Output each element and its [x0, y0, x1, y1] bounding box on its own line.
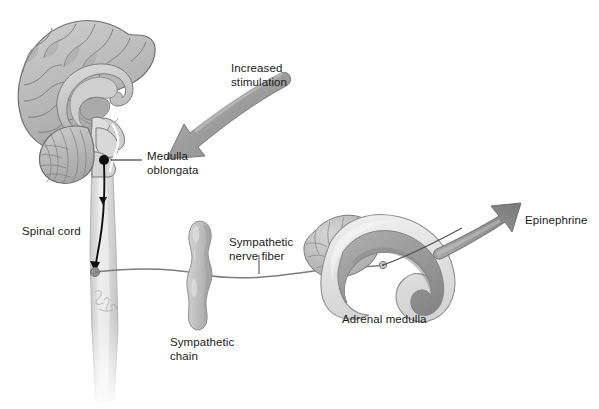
sympathetic-chain-ganglion — [187, 221, 212, 330]
spinal-cord-group — [86, 150, 126, 409]
epinephrine-arrow-highlight — [437, 219, 501, 255]
adrenal-gland — [304, 215, 462, 322]
medulla-origin-dot — [99, 155, 109, 165]
spinal-cord-fade — [86, 320, 126, 409]
label-sympathetic-nerve-fiber: Sympathetic nerve fiber — [229, 236, 293, 263]
label-increased-stimulation: Increased stimulation — [231, 62, 287, 89]
label-adrenal-medulla: Adrenal medulla — [342, 313, 427, 327]
label-spinal-cord: Spinal cord — [22, 225, 81, 239]
label-epinephrine: Epinephrine — [525, 214, 587, 228]
label-medulla-oblongata: Medulla oblongata — [147, 150, 198, 177]
figure-canvas: Increased stimulation Medulla oblongata … — [0, 0, 599, 409]
label-sympathetic-chain: Sympathetic chain — [170, 336, 234, 363]
anatomy-illustration — [0, 0, 599, 409]
epinephrine-secretion-arrow — [434, 203, 521, 259]
brain-group — [18, 21, 155, 184]
